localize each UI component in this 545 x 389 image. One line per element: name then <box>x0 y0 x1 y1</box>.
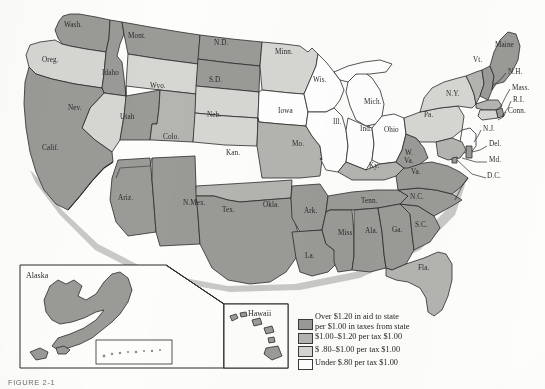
state-label-ark: Ark. <box>304 207 317 215</box>
state-label-pa: Pa. <box>424 111 433 119</box>
callout-label-conn: Conn. <box>508 107 526 115</box>
state-kansas <box>193 113 258 146</box>
state-label-n-d: N.D. <box>214 39 228 47</box>
state-label-utah: Utah <box>120 113 135 121</box>
state-nebraska <box>195 86 259 118</box>
callout-label-nj: N.J. <box>483 125 495 133</box>
legend-swatch-tier3 <box>298 346 313 357</box>
legend-label-tier4: Under $.80 per tax $1.00 <box>315 358 398 368</box>
state-label-vt: Vt. <box>473 56 482 64</box>
state-label-w-va: W. <box>405 149 413 157</box>
state-label-mo: Mo. <box>292 140 304 148</box>
callout-label-mass: Mass. <box>512 84 530 92</box>
alaska-inset-label: Alaska <box>26 271 49 280</box>
state-massachusetts <box>476 100 502 110</box>
state-label-colo: Colo. <box>163 133 179 141</box>
legend-item-tier2: $1.00–$1.20 per tax $1.00 <box>298 332 470 345</box>
state-label-ohio: Ohio <box>384 126 399 134</box>
state-label-s-d: S.D. <box>209 76 222 84</box>
state-label-ariz: Ariz. <box>118 194 133 202</box>
state-label-mont: Mont. <box>128 32 146 40</box>
callout-label-nh: N.H. <box>508 68 522 76</box>
legend-swatch-tier4 <box>298 359 313 370</box>
hawaii-inset-label: Hawaii <box>248 309 272 318</box>
state-texas <box>196 196 300 284</box>
state-label-maine: Maine <box>495 41 514 49</box>
legend-label-tier1-line1: Over $1.20 in aid to state <box>315 312 399 321</box>
legend-swatch-tier2 <box>298 333 313 344</box>
legend-item-tier3: $ .80–$1.00 per tax $1.00 <box>298 345 470 358</box>
state-label-miss: Miss. <box>338 229 354 237</box>
legend-item-tier1: Over $1.20 in aid to state per $1.00 in … <box>298 312 470 331</box>
state-label-s-c: S.C. <box>415 221 428 229</box>
state-label-ky: Ky. <box>369 162 380 170</box>
state-label-ga: Ga. <box>392 226 403 234</box>
state-dc <box>452 157 457 163</box>
legend-label-tier1: Over $1.20 in aid to state per $1.00 in … <box>315 312 409 331</box>
state-label-okla: Okla. <box>263 201 279 209</box>
state-label-la: La. <box>305 252 315 260</box>
state-label-kan: Kan. <box>226 149 240 157</box>
state-label-fla: Fla. <box>418 264 429 272</box>
state-label-tenn: Tenn. <box>361 197 378 205</box>
state-label-nev: Nev. <box>68 104 82 112</box>
state-label-w-va-2: Va. <box>404 157 414 165</box>
figure-container: .s1{fill:#9a9a97;stroke:#2b2b29;stroke-w… <box>0 0 545 389</box>
legend-item-tier4: Under $.80 per tax $1.00 <box>298 358 470 371</box>
state-label-tex: Tex. <box>222 206 235 214</box>
state-label-n-y: N.Y. <box>446 90 460 98</box>
state-label-wis: Wis. <box>313 76 327 84</box>
state-label-calif: Calif. <box>42 144 59 152</box>
legend-swatch-tier1 <box>298 319 313 330</box>
state-label-ill: Ill. <box>333 118 342 126</box>
state-label-wyo: Wyo. <box>150 82 166 90</box>
state-label-va: Va. <box>411 168 421 176</box>
legend-label-tier3: $ .80–$1.00 per tax $1.00 <box>315 345 400 355</box>
state-label-ala: Ala. <box>365 227 378 235</box>
state-label-neb: Neb. <box>207 111 221 119</box>
state-pennsylvania <box>404 106 464 142</box>
state-delaware <box>466 146 472 158</box>
figure-caption: FIGURE 2-1 <box>8 378 55 386</box>
state-label-mich: Mich. <box>364 98 382 106</box>
state-label-n-mex: N.Mex. <box>183 199 206 207</box>
state-label-ind: Ind. <box>360 125 372 133</box>
state-label-idaho: Idaho <box>102 69 119 77</box>
legend: Over $1.20 in aid to state per $1.00 in … <box>298 312 470 371</box>
state-label-iowa: Iowa <box>278 107 293 115</box>
callout-label-ri: R.I. <box>513 96 524 104</box>
callout-label-dc: D.C. <box>487 172 501 180</box>
callout-label-md: Md. <box>489 156 501 164</box>
legend-label-tier1-line2: per $1.00 in taxes from state <box>315 322 409 332</box>
state-label-minn: Minn. <box>275 48 293 56</box>
state-label-wash: Wash. <box>64 21 82 29</box>
state-connecticut <box>478 110 498 120</box>
legend-label-tier2: $1.00–$1.20 per tax $1.00 <box>315 332 402 342</box>
state-label-oreg: Oreg. <box>42 56 59 64</box>
state-label-n-c: N.C. <box>410 193 424 201</box>
callout-label-del: Del. <box>489 140 502 148</box>
